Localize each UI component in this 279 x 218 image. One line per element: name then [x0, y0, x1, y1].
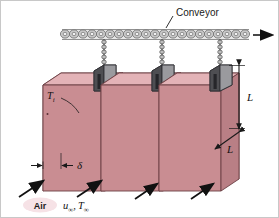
thickness-dimension-label: δ [77, 159, 83, 171]
freestream-label: u∞,T∞ [63, 200, 89, 214]
height-dimension-label: L [246, 91, 253, 103]
conveyor-label-group: Conveyor [166, 7, 219, 28]
depth-dimension-label: L [226, 143, 233, 155]
conveyor-chain [60, 29, 249, 40]
freestream-label-group: u∞,T∞ [63, 200, 89, 214]
air-label: Air [34, 201, 47, 211]
airflow-arrow-1 [19, 181, 43, 197]
figure-canvas: Conveyor Ti [1, 1, 278, 217]
plate-3 [159, 65, 239, 191]
air-label-group: Air [23, 198, 57, 213]
conveyor-plate-diagram: Conveyor Ti [1, 1, 279, 218]
hanger-chains [102, 39, 223, 65]
conveyor-label: Conveyor [176, 7, 219, 18]
